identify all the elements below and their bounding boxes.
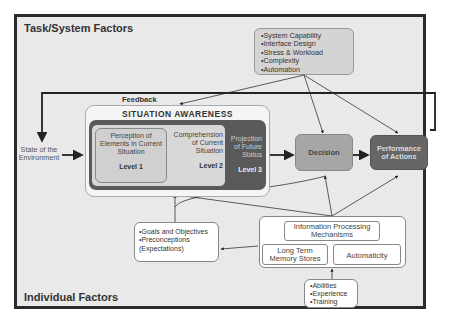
ability-line-1: •Abilities — [310, 282, 352, 290]
level-3-text-2: of Future — [226, 143, 262, 151]
level-1-text-1: Perception of — [96, 132, 166, 140]
long-term-memory-box: Long Term Memory Stores — [262, 244, 328, 265]
goals-box: •Goals and Objectives •Preconceptions (E… — [134, 222, 219, 262]
level-3-text-1: Projection — [226, 135, 262, 143]
level-3-box: Projection of Future Status Level 3 — [226, 135, 262, 174]
state-line-2: Environment — [15, 154, 63, 162]
performance-box: Performance of Actions — [370, 135, 428, 170]
feedback-label: Feedback — [122, 95, 157, 104]
goal-line-3: (Expectations) — [139, 245, 214, 253]
sa-title: SITUATION AWARENESS — [85, 109, 270, 119]
info-processing-box: Information Processing Mechanisms — [284, 221, 380, 241]
level-1-text-3: Situation — [96, 148, 166, 156]
level-1-text-2: Elements in Current — [96, 140, 166, 148]
goal-line-1: •Goals and Objectives — [139, 228, 214, 236]
level-2-label: Level 2 — [167, 162, 223, 170]
ability-line-3: •Training — [310, 298, 352, 306]
info-processing-line-2: Mechanisms — [285, 231, 379, 239]
goal-line-2: •Preconceptions — [139, 236, 214, 244]
level-2-text-3: Situation — [167, 147, 223, 155]
performance-line-2: of Actions — [382, 153, 417, 161]
level-2-box: Comprehension of Current Situation Level… — [167, 131, 223, 170]
ltm-line-2: Memory Stores — [263, 255, 327, 263]
level-1-box: Perception of Elements in Current Situat… — [95, 128, 167, 183]
level-1-label: Level 1 — [96, 163, 166, 171]
automaticity-box: Automaticity — [333, 244, 401, 265]
decision-box: Decision — [295, 134, 353, 171]
ability-line-2: •Experience — [310, 290, 352, 298]
level-2-text-1: Comprehension — [167, 131, 223, 139]
state-of-environment: State of the Environment — [15, 146, 63, 162]
level-3-label: Level 3 — [226, 166, 262, 174]
level-2-text-2: of Current — [167, 139, 223, 147]
abilities-box: •Abilities •Experience •Training — [304, 279, 358, 308]
level-3-text-3: Status — [226, 151, 262, 159]
